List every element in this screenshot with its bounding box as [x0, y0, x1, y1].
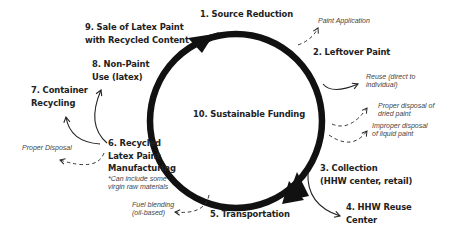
note-fuel-blending: Fuel blending (oil-based) — [132, 201, 174, 217]
stage-8-non-paint-use: 8. Non-Paint Use (latex) — [92, 58, 149, 83]
stage-3-line-1: 3. Collection — [320, 162, 412, 175]
note-improper-disposal-liquid-paint: Improper disposal of liquid paint — [372, 122, 428, 138]
note-line: Proper disposal of — [378, 102, 434, 110]
stage-9-line-2: with Recycled Content — [85, 34, 189, 47]
stage-2-line: 2. Leftover Paint — [313, 46, 390, 59]
note-reuse: Reuse (direct to individual) — [366, 73, 415, 89]
note-line: Paint Application — [318, 17, 370, 25]
note-paint-application: Paint Application — [318, 17, 370, 25]
stage-7-line-2: Recycling — [31, 97, 88, 110]
improper-liquid-arrow-icon — [329, 131, 367, 142]
stage-1-line: 1. Source Reduction — [200, 8, 293, 21]
note-line: dried paint — [378, 110, 434, 118]
stage-2-leftover-paint: 2. Leftover Paint — [313, 46, 390, 59]
stage-7-line-1: 7. Container — [31, 84, 88, 97]
note-proper-disposal-dried-paint: Proper disposal of dried paint — [378, 102, 434, 118]
stage-4-line-1: 4. HHW Reuse — [346, 201, 412, 214]
proper-disposal-arrow-icon — [60, 153, 104, 165]
note-line: of liquid paint — [372, 130, 428, 138]
stage-3-collection: 3. Collection (HHW center, retail) — [320, 162, 412, 187]
note-line: virgin raw materials — [108, 183, 168, 191]
note-line: Reuse (direct to — [366, 73, 415, 81]
paint-application-arrow-icon — [298, 28, 318, 45]
stage-5-transportation: 5. Transportation — [210, 208, 290, 221]
note-line: Improper disposal — [372, 122, 428, 130]
note-line: individual) — [366, 81, 415, 89]
stage-4-line-2: Center — [346, 214, 412, 227]
center-label-sustainable-funding: 10. Sustainable Funding — [193, 108, 305, 121]
stage-4-hhw-reuse-center: 4. HHW Reuse Center — [346, 201, 412, 226]
stage-9-sale-of-latex-paint: 9. Sale of Latex Paint with Recycled Con… — [85, 21, 189, 46]
note-line: *Can include some — [108, 175, 168, 183]
stage-6-line-3: Manufacturing — [108, 162, 176, 175]
reuse-arrow-icon — [323, 84, 358, 90]
stage-8-line-2: Use (latex) — [92, 71, 149, 84]
stage-6-recycled-latex-paint: 6. Recycled Latex Paint Manufacturing — [108, 137, 176, 175]
note-line: Fuel blending — [132, 201, 174, 209]
stage-7-container-recycling: 7. Container Recycling — [31, 84, 88, 109]
nonpaint-arrow-icon — [95, 90, 107, 143]
stage-6-line-2: Latex Paint — [108, 150, 176, 163]
stage-8-line-1: 8. Non-Paint — [92, 58, 149, 71]
note-proper-disposal: Proper Disposal — [22, 144, 72, 152]
proper-dried-arrow-icon — [332, 108, 367, 126]
stage-1-source-reduction: 1. Source Reduction — [200, 8, 293, 21]
cycle-arrowhead-top-icon — [188, 32, 219, 53]
note-virgin-raw-materials: *Can include some virgin raw materials — [108, 175, 168, 191]
stage-5-line: 5. Transportation — [210, 208, 290, 221]
note-line: (oil-based) — [132, 209, 174, 217]
stage-6-line-1: 6. Recycled — [108, 137, 176, 150]
stage-3-line-2: (HHW center, retail) — [320, 175, 412, 188]
note-line: Proper Disposal — [22, 144, 72, 152]
stage-9-line-1: 9. Sale of Latex Paint — [85, 21, 189, 34]
